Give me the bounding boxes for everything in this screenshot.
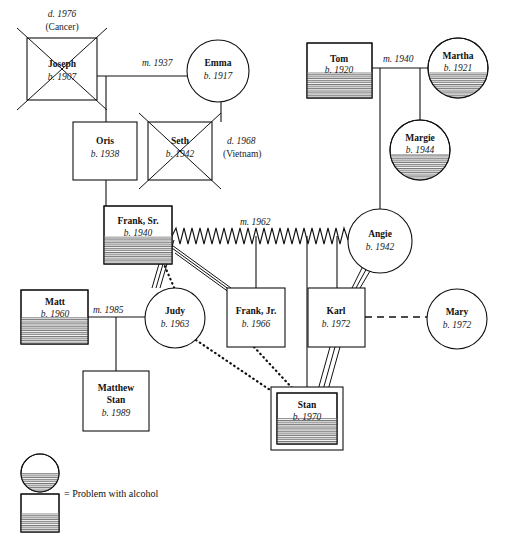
person-mary[interactable]: Mary b. 1972 [427, 289, 487, 349]
person-death: d. 1976 [48, 9, 77, 19]
person-birth: b. 1989 [102, 408, 131, 418]
marriage-label-joseph-emma: m. 1937 [142, 58, 174, 68]
person-name: Martha [442, 51, 473, 61]
person-birth: b. 1963 [161, 319, 190, 329]
person-tom[interactable]: Tom b. 1920 [307, 43, 372, 98]
person-martha[interactable]: Martha b. 1921 [428, 38, 488, 102]
person-name: Matt [45, 297, 66, 307]
person-birth: b. 1938 [91, 149, 120, 159]
person-matt[interactable]: Matt b. 1960 [21, 290, 88, 344]
person-frankjr[interactable]: Frank, Jr. b. 1966 [227, 288, 285, 347]
person-emma[interactable]: Emma b. 1917 [187, 40, 249, 102]
person-joseph[interactable]: Joseph b. 1907 d. 1976 (Cancer) [17, 9, 107, 110]
person-name: Emma [205, 58, 232, 68]
relationship-judy-stan-dotted [196, 340, 282, 398]
genogram-canvas: Joseph b. 1907 d. 1976 (Cancer) Emma b. … [0, 0, 511, 546]
marriage-franksr-angie [172, 228, 348, 244]
person-birth: b. 1907 [48, 72, 78, 82]
person-name: Matthew [98, 383, 135, 393]
genogram-svg: Joseph b. 1907 d. 1976 (Cancer) Emma b. … [0, 0, 511, 546]
marriage-label-tom-martha: m. 1940 [383, 54, 414, 64]
marriage-label-franksr-angie: m. 1962 [240, 217, 271, 227]
legend-label: = Problem with alcohol [64, 488, 158, 499]
person-seth[interactable]: Seth b. 1942 d. 1968 (Vietnam) [139, 113, 261, 189]
person-birth: b. 1940 [124, 228, 153, 238]
person-name: Tom [330, 54, 348, 64]
legend: = Problem with alcohol [21, 454, 158, 532]
person-karl[interactable]: Karl b. 1972 [308, 288, 365, 347]
person-name: Frank, Jr. [236, 306, 277, 316]
person-birth: b. 1970 [293, 412, 322, 422]
person-birth: b. 1944 [406, 145, 435, 155]
person-birth: b. 1942 [166, 149, 195, 159]
marriage-label-matt-judy: m. 1985 [93, 305, 124, 315]
person-oris[interactable]: Oris b. 1938 [73, 122, 137, 180]
person-name: Karl [327, 306, 346, 316]
person-name: Angie [368, 229, 392, 239]
person-birth: b. 1966 [242, 319, 271, 329]
person-name: Margie [405, 133, 435, 143]
relationship-karl-stan-fused [318, 347, 340, 390]
person-birth: b. 1920 [325, 65, 354, 75]
marriage-matt-judy [88, 317, 145, 371]
person-franksr[interactable]: Frank, Sr. b. 1940 [104, 206, 172, 264]
person-birth: b. 1972 [322, 319, 351, 329]
person-name: Frank, Sr. [117, 216, 158, 226]
person-judy[interactable]: Judy b. 1963 [145, 288, 205, 348]
person-name: Stan [298, 400, 317, 410]
person-death-cause: (Cancer) [45, 22, 78, 33]
person-matthew-stan[interactable]: Matthew Stan b. 1989 [83, 371, 149, 431]
person-birth: b. 1942 [366, 242, 395, 252]
person-name-2: Stan [107, 395, 126, 405]
person-stan[interactable]: Stan b. 1970 [271, 387, 343, 450]
person-name: Seth [171, 136, 190, 146]
person-death-cause: (Vietnam) [223, 149, 261, 160]
person-name: Joseph [48, 59, 77, 69]
person-name: Mary [446, 307, 469, 317]
person-birth: b. 1917 [204, 71, 234, 81]
person-angie[interactable]: Angie b. 1942 [348, 209, 412, 273]
person-birth: b. 1921 [444, 63, 473, 73]
person-birth: b. 1960 [41, 309, 70, 319]
person-margie[interactable]: Margie b. 1944 [390, 120, 450, 184]
person-name: Oris [96, 136, 114, 146]
person-birth: b. 1972 [443, 320, 472, 330]
person-death: d. 1968 [227, 136, 256, 146]
person-name: Judy [165, 306, 185, 316]
